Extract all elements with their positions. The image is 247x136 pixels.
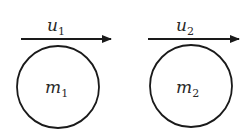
collision-diagram: u1 m1 u2 m2 bbox=[0, 0, 247, 136]
mass-label-1: m1 bbox=[45, 77, 68, 100]
body-1: u1 m1 bbox=[17, 15, 111, 128]
velocity-label-1: u1 bbox=[47, 15, 65, 38]
velocity-label-2: u2 bbox=[176, 15, 194, 38]
mass-label-2: m2 bbox=[176, 77, 199, 100]
body-2: u2 m2 bbox=[148, 15, 239, 127]
